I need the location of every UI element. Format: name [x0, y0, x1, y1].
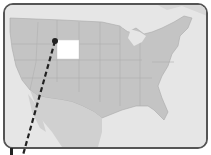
edge-mark: [10, 148, 13, 155]
callout-overlay: [0, 0, 211, 155]
callout-dashed-line: [23, 41, 55, 155]
location-dot-icon: [52, 38, 58, 44]
